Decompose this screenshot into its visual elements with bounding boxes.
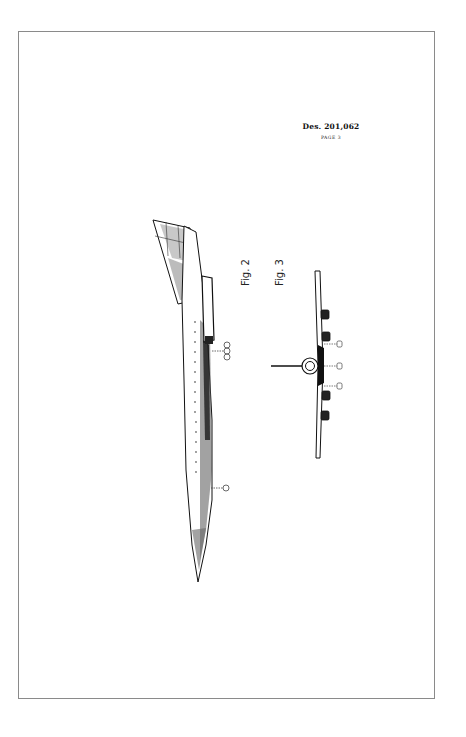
front-view-landing-gear bbox=[324, 341, 342, 389]
figure-3-drawing bbox=[0, 0, 466, 737]
fuselage-front bbox=[302, 358, 318, 374]
